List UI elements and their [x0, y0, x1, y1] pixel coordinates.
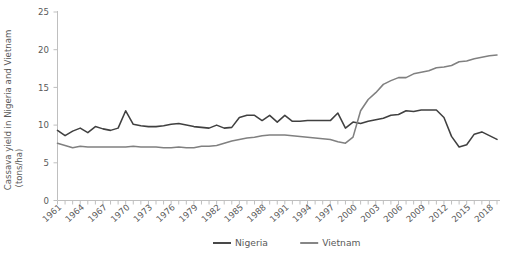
x-tick-label: 1988: [245, 202, 268, 224]
x-axis-tick-labels: 1961196419671970197319761979198219851988…: [40, 202, 495, 224]
x-tick-label: 1964: [63, 202, 86, 224]
x-tick-label: 1991: [268, 202, 291, 224]
series-line-vietnam: [58, 55, 498, 148]
x-tick-label: 2003: [359, 202, 382, 224]
x-tick-label: 1997: [313, 202, 336, 224]
x-tick-label: 1967: [86, 202, 109, 224]
x-tick-label: 2015: [450, 202, 473, 224]
y-tick-label: 10: [38, 120, 49, 130]
legend-label-vietnam[interactable]: Vietnam: [322, 237, 360, 248]
y-tick-label: 5: [44, 158, 49, 168]
legend-label-nigeria[interactable]: Nigeria: [235, 237, 268, 248]
series-line-nigeria: [58, 110, 498, 147]
y-tick-label: 15: [38, 83, 49, 93]
x-tick-label: 1970: [109, 202, 132, 224]
x-tick-label: 1979: [177, 202, 200, 224]
x-tick-label: 2000: [336, 202, 359, 224]
chart-container: Cassava yield in Nigeria and Vietnam (to…: [0, 0, 515, 256]
x-tick-label: 1976: [154, 202, 177, 224]
y-axis-ticks: 0510152025: [38, 7, 57, 206]
data-series-group: [58, 55, 498, 148]
x-tick-label: 1994: [290, 202, 313, 224]
line-chart: Cassava yield in Nigeria and Vietnam (to…: [0, 0, 515, 256]
x-tick-label: 2009: [404, 202, 427, 224]
y-axis-title: Cassava yield in Nigeria and Vietnam (to…: [3, 30, 24, 191]
y-tick-label: 20: [38, 45, 49, 55]
y-axis-title-line1: Cassava yield in Nigeria and Vietnam: [3, 30, 13, 191]
x-tick-label: 2018: [472, 202, 495, 224]
x-tick-label: 1982: [200, 202, 223, 224]
x-tick-label: 2006: [381, 202, 404, 224]
y-axis-title-line2: (tons/ha): [14, 149, 24, 188]
x-tick-label: 2012: [427, 202, 450, 224]
y-tick-label: 25: [38, 7, 49, 17]
y-tick-label: 0: [44, 196, 49, 206]
x-tick-label: 1985: [222, 202, 245, 224]
x-tick-label: 1973: [131, 202, 154, 224]
chart-legend: NigeriaVietnam: [213, 237, 361, 248]
